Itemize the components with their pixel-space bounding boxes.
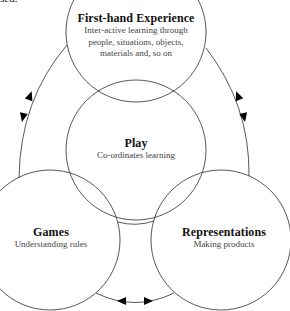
node-play: Play Co-ordinates learning — [76, 137, 196, 162]
connector-games-representations — [96, 293, 174, 303]
node-description-line: Co-ordinates learning — [76, 150, 196, 162]
node-title: First-hand Experience — [66, 12, 206, 25]
connector-inner-link — [118, 221, 154, 224]
node-title: Games — [0, 226, 102, 239]
node-description-line: Understanding rules — [0, 239, 102, 251]
node-description-line: Making products — [166, 239, 282, 251]
node-first-hand-experience: First-hand Experience Inter-active learn… — [66, 12, 206, 60]
node-description-line: people, situations, objects, — [66, 37, 206, 49]
node-title: Play — [76, 137, 196, 150]
node-games: Games Understanding rules — [0, 226, 102, 251]
node-title: Representations — [166, 226, 282, 239]
play-learning-diagram: sed. F — [0, 0, 290, 311]
connector-first-hand-representations — [206, 48, 249, 176]
arrow-right-icon — [144, 297, 153, 305]
node-representations: Representations Making products — [166, 226, 282, 251]
connector-first-hand-games — [19, 45, 67, 178]
node-description-line: Inter-active learning through — [66, 25, 206, 37]
arrow-down-icon — [239, 112, 249, 122]
arrow-left-icon — [117, 297, 126, 305]
node-description-line: materials and, so on — [66, 48, 206, 60]
